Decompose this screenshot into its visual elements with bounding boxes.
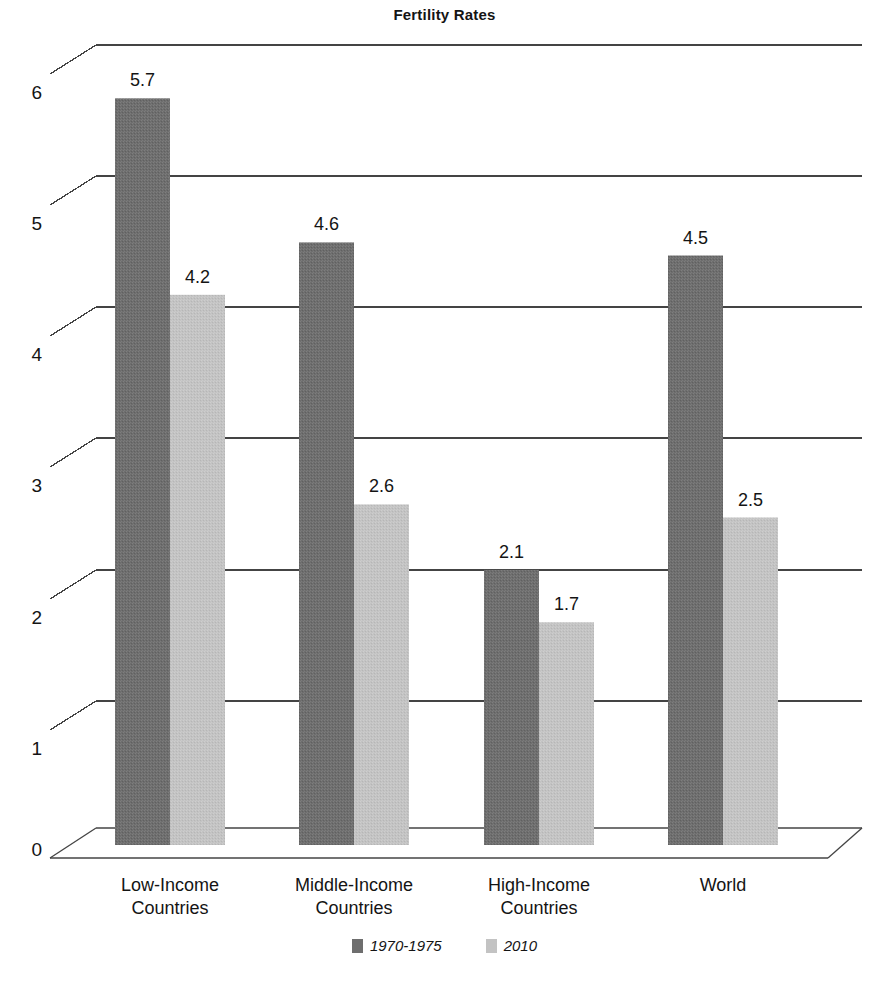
chart-legend: 1970-1975 2010 [0, 938, 889, 953]
bar-1-series-1 [354, 504, 409, 845]
bar-3-series-0 [668, 256, 723, 846]
ytick-label-3: 3 [8, 476, 42, 495]
legend-entry-2010: 2010 [486, 938, 537, 953]
category-label-1-line-1: Middle-Income [254, 874, 454, 897]
bar-1-series-0 [299, 242, 354, 845]
category-label-2: High-IncomeCountries [439, 874, 639, 920]
category-label-1-line-2: Countries [254, 897, 454, 920]
chart-container: Fertility Rates [0, 0, 889, 985]
floor-right-diagonal [828, 828, 862, 858]
ytick-label-4: 4 [8, 345, 42, 364]
category-label-3: World [623, 874, 823, 897]
category-label-0: Low-IncomeCountries [70, 874, 270, 920]
value-label-1-series-1: 2.6 [349, 477, 415, 495]
bar-2-series-1 [539, 622, 594, 845]
value-label-1-series-0: 4.6 [294, 215, 360, 233]
ytick-label-2: 2 [8, 608, 42, 627]
legend-label-series-b: 2010 [504, 938, 537, 953]
category-label-2-line-2: Countries [439, 897, 639, 920]
category-label-2-line-1: High-Income [439, 874, 639, 897]
value-label-2-series-0: 2.1 [479, 543, 545, 561]
category-label-3-line-1: World [623, 874, 823, 897]
value-label-3-series-0: 4.5 [663, 229, 729, 247]
category-label-1: Middle-IncomeCountries [254, 874, 454, 920]
legend-swatch-icon-series-a [352, 939, 363, 953]
value-label-3-series-1: 2.5 [718, 491, 784, 509]
bar-0-series-0 [115, 98, 170, 845]
legend-entry-1970-1975: 1970-1975 [352, 938, 442, 953]
floor-left-diagonal [50, 828, 96, 858]
value-label-0-series-0: 5.7 [110, 71, 176, 89]
ytick-label-0: 0 [8, 840, 42, 859]
value-label-2-series-1: 1.7 [534, 595, 600, 613]
category-label-0-line-1: Low-Income [70, 874, 270, 897]
legend-label-series-a: 1970-1975 [370, 938, 442, 953]
gridline-6 [50, 45, 862, 74]
bar-2-series-0 [484, 570, 539, 845]
ytick-label-5: 5 [8, 214, 42, 233]
bar-0-series-1 [170, 295, 225, 845]
gridline-5 [50, 176, 862, 205]
value-label-0-series-1: 4.2 [165, 268, 231, 286]
category-label-0-line-2: Countries [70, 897, 270, 920]
bar-3-series-1 [723, 518, 778, 846]
bar-group [115, 98, 778, 845]
legend-swatch-icon-series-b [486, 939, 497, 953]
ytick-label-1: 1 [8, 739, 42, 758]
ytick-label-6: 6 [8, 83, 42, 102]
